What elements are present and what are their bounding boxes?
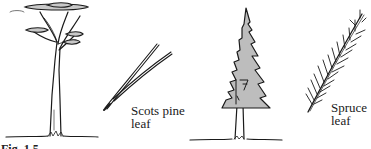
figure-caption-fragment: Fig. 1.5 — [1, 143, 39, 149]
spruce-leaf-icon — [306, 10, 366, 112]
spruce-tree-icon — [190, 8, 282, 140]
spruce-leaf-label: Spruce leaf — [331, 101, 367, 127]
spruce-label-line2: leaf — [331, 114, 367, 127]
scots-pine-leaf-icon — [104, 44, 172, 110]
scots-pine-label-line2: leaf — [131, 117, 185, 130]
tree-leaf-figure: Scots pine leaf Spruce leaf Fig. 1.5 — [0, 0, 371, 149]
scots-pine-tree-icon — [6, 3, 98, 137]
figure-drawing — [0, 0, 371, 149]
scots-pine-leaf-label: Scots pine leaf — [131, 104, 185, 130]
